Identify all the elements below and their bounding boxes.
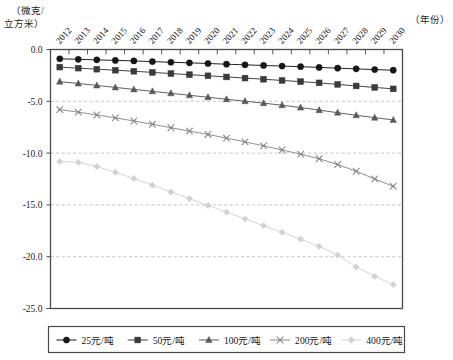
legend-item-label: 100元/吨 [224,335,261,346]
legend-item-label: 50元/吨 [153,335,185,346]
marker-circle [94,57,100,63]
marker-square [298,79,304,85]
marker-square [316,80,322,86]
y-axis-tick-label: -10.0 [23,149,43,159]
marker-circle [372,66,378,72]
marker-circle [186,60,192,66]
marker-circle [63,337,69,343]
marker-square [335,82,341,88]
marker-square [131,68,137,74]
y-axis-tick-label: 0.0 [31,45,43,55]
marker-circle [149,59,155,65]
marker-square [372,85,378,91]
y-axis-tick-label: -15.0 [23,200,43,210]
marker-circle [112,57,118,63]
marker-square [94,66,100,72]
marker-circle [298,64,304,70]
marker-circle [316,64,322,70]
legend-item-label: 400元/吨 [366,335,403,346]
marker-square [261,76,267,82]
marker-circle [223,61,229,67]
marker-square [279,78,285,84]
marker-circle [57,56,63,62]
marker-circle [260,62,266,68]
marker-square [168,71,174,77]
line-chart-figure: 0.0-5.0-10.0-15.0-20.0-25.0 201220132014… [0,0,453,360]
chart-canvas: 0.0-5.0-10.0-15.0-20.0-25.0 201220132014… [0,0,453,360]
y-axis-tick-label: -5.0 [27,97,42,107]
marker-square [390,86,396,92]
marker-square [205,73,211,79]
legend-item-label: 200元/吨 [295,335,332,346]
marker-circle [279,63,285,69]
marker-circle [335,65,341,71]
marker-square [149,69,155,75]
marker-circle [242,62,248,68]
marker-circle [390,67,396,73]
y-axis-title-line-2: 立方米） [4,18,44,29]
chart-background [0,0,453,360]
marker-circle [353,66,359,72]
marker-circle [131,58,137,64]
legend-group: 25元/吨50元/吨100元/吨200元/吨400元/吨 [49,327,405,353]
y-axis-tick-label: -25.0 [23,304,43,314]
legend-item-label: 25元/吨 [82,335,114,346]
marker-square [187,72,193,78]
marker-square [135,337,141,343]
marker-square [57,64,63,70]
marker-square [242,75,248,81]
y-axis-title-line-1: （微克/ [11,5,44,16]
marker-circle [205,60,211,66]
marker-square [112,67,118,73]
marker-circle [168,59,174,65]
marker-square [75,65,81,71]
marker-square [224,74,230,80]
marker-square [353,83,359,89]
x-axis-title: （年份） [410,14,450,25]
y-axis-tick-label: -20.0 [23,252,43,262]
marker-circle [75,56,81,62]
